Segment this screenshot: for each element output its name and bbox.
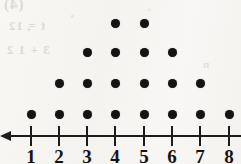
axis-tick-label: 1	[20, 147, 42, 164]
axis-tick	[199, 126, 201, 146]
axis-tick	[171, 126, 173, 146]
axis-tick-layer: 12345678	[0, 0, 241, 164]
axis-tick-label: 6	[161, 147, 183, 164]
axis-tick	[58, 126, 60, 146]
axis-tick-label: 5	[133, 147, 155, 164]
dot-plot-figure: (4) t = 12 3 + 1 2 n 12345678	[0, 0, 241, 164]
axis-tick-label: 2	[48, 147, 70, 164]
axis-tick	[30, 126, 32, 146]
axis-tick	[143, 126, 145, 146]
axis-tick	[114, 126, 116, 146]
axis-tick-label: 4	[104, 147, 126, 164]
axis-tick	[86, 126, 88, 146]
axis-tick	[228, 126, 230, 146]
axis-tick-label: 3	[76, 147, 98, 164]
axis-tick-label: 8	[218, 147, 240, 164]
axis-tick-label: 7	[189, 147, 211, 164]
